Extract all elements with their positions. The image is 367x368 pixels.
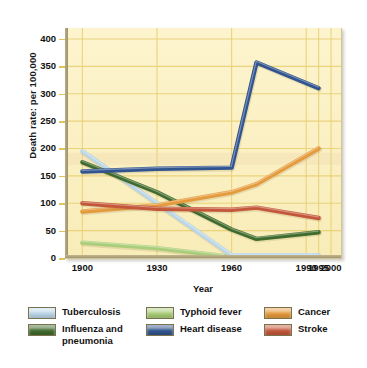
legend-label: Cancer bbox=[298, 306, 330, 318]
x-tick-label: 1900 bbox=[72, 262, 93, 273]
legend-item[interactable]: Heart disease bbox=[146, 323, 242, 336]
legend-item[interactable]: Typhoid fever bbox=[146, 306, 242, 319]
x-axis-title: Year bbox=[65, 283, 341, 294]
legend-label: Stroke bbox=[298, 323, 328, 335]
x-tick-label: 1960 bbox=[221, 262, 242, 273]
line-chart-figure: Death rate: per 100,000 0501001502002503… bbox=[0, 0, 367, 368]
legend-item[interactable]: Cancer bbox=[264, 306, 330, 319]
chart-legend: TuberculosisInfluenza and pneumoniaTypho… bbox=[28, 306, 358, 364]
legend-color-swatch bbox=[146, 307, 174, 319]
y-tick-label: 150 bbox=[26, 171, 56, 181]
plot-area bbox=[65, 28, 342, 259]
legend-item[interactable]: Stroke bbox=[264, 323, 328, 336]
y-tick-label: 400 bbox=[26, 34, 56, 44]
legend-color-swatch bbox=[28, 307, 56, 319]
x-tick-label: 2000 bbox=[320, 262, 341, 273]
y-tick-label: 300 bbox=[26, 89, 56, 99]
y-tick-label: 0 bbox=[26, 253, 56, 263]
y-tick-label: 350 bbox=[26, 61, 56, 71]
legend-item[interactable]: Influenza and pneumonia bbox=[28, 323, 123, 346]
bottom-axis-spine bbox=[65, 255, 341, 258]
plot-svg bbox=[65, 28, 341, 258]
legend-item[interactable]: Tuberculosis bbox=[28, 306, 120, 319]
y-tick-label: 100 bbox=[26, 198, 56, 208]
legend-color-swatch bbox=[264, 324, 292, 336]
legend-label: Typhoid fever bbox=[180, 306, 242, 318]
y-tick-label: 200 bbox=[26, 143, 56, 153]
y-tick-label: 250 bbox=[26, 116, 56, 126]
legend-color-swatch bbox=[146, 324, 174, 336]
legend-color-swatch bbox=[264, 307, 292, 319]
legend-color-swatch bbox=[28, 324, 56, 336]
legend-label: Tuberculosis bbox=[62, 306, 120, 318]
legend-label: Influenza and pneumonia bbox=[62, 323, 123, 346]
y-tick-label: 50 bbox=[26, 226, 56, 236]
left-axis-spine bbox=[65, 28, 68, 258]
legend-label: Heart disease bbox=[180, 323, 242, 335]
x-tick-label: 1930 bbox=[146, 262, 167, 273]
